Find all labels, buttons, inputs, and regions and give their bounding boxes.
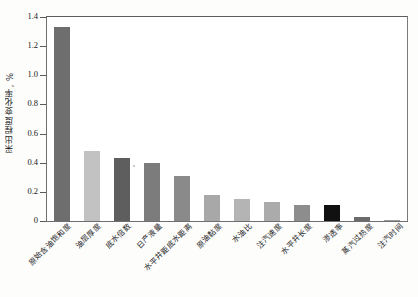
bar (264, 202, 281, 221)
bar-slot (287, 17, 317, 221)
plot-area (46, 16, 408, 222)
bar (54, 27, 71, 221)
bar-slot (137, 17, 167, 221)
y-axis-tick-label: 0.8 (12, 99, 38, 108)
y-axis-tick-label: 1.2 (12, 41, 38, 50)
bar-slot (227, 17, 257, 221)
bar-slot (107, 17, 137, 221)
x-axis-tick-label: 水平井长度 (280, 222, 314, 256)
x-axis-tick-labels: 原始含油饱和度油层厚度底水倍数日产液量水平井距底水距离原油黏度水油比注汽速度水平… (46, 222, 408, 297)
bar-slot (347, 17, 377, 221)
bar-chart-figure: 采出程度变化率, % 00.20.40.60.81.01.21.4 原始含油饱和… (0, 0, 418, 297)
y-axis-tick-label: 0.6 (12, 129, 38, 138)
bar-slot (77, 17, 107, 221)
x-axis-tick-label: 日产液量 (135, 222, 163, 250)
y-axis-tick-label: 1.0 (12, 70, 38, 79)
bar (114, 158, 131, 221)
x-axis-tick-label: 原始含油饱和度 (27, 222, 72, 267)
y-axis-tick-label: 0.4 (12, 158, 38, 167)
y-axis-tick-label: 0 (12, 216, 38, 225)
x-axis-tick-label: 渗透率 (322, 222, 345, 245)
bar-series (47, 17, 407, 221)
y-axis-tick-label: 0.2 (12, 187, 38, 196)
x-axis-tick-label: 底水倍数 (105, 222, 133, 250)
bar-slot (167, 17, 197, 221)
bar-slot (317, 17, 347, 221)
bar (144, 163, 161, 221)
bar (324, 205, 341, 221)
x-axis-tick-label: 油层厚度 (75, 222, 103, 250)
bar (174, 176, 191, 221)
x-axis-tick-label: 蒸汽过热度 (340, 222, 374, 256)
bar (294, 205, 311, 221)
bar (204, 195, 221, 221)
bar-slot (47, 17, 77, 221)
x-axis-tick-label: 注汽时间 (376, 222, 404, 250)
scan-speck (133, 165, 135, 167)
bar-slot (197, 17, 227, 221)
bar-slot (377, 17, 407, 221)
y-axis-tick-label: 1.4 (12, 12, 38, 21)
x-axis-tick-label: 原油黏度 (195, 222, 223, 250)
bar-slot (257, 17, 287, 221)
bar (84, 151, 101, 221)
x-axis-tick-label: 注汽速度 (256, 222, 284, 250)
x-axis-tick-label: 水油比 (231, 222, 254, 245)
bar (234, 199, 251, 221)
